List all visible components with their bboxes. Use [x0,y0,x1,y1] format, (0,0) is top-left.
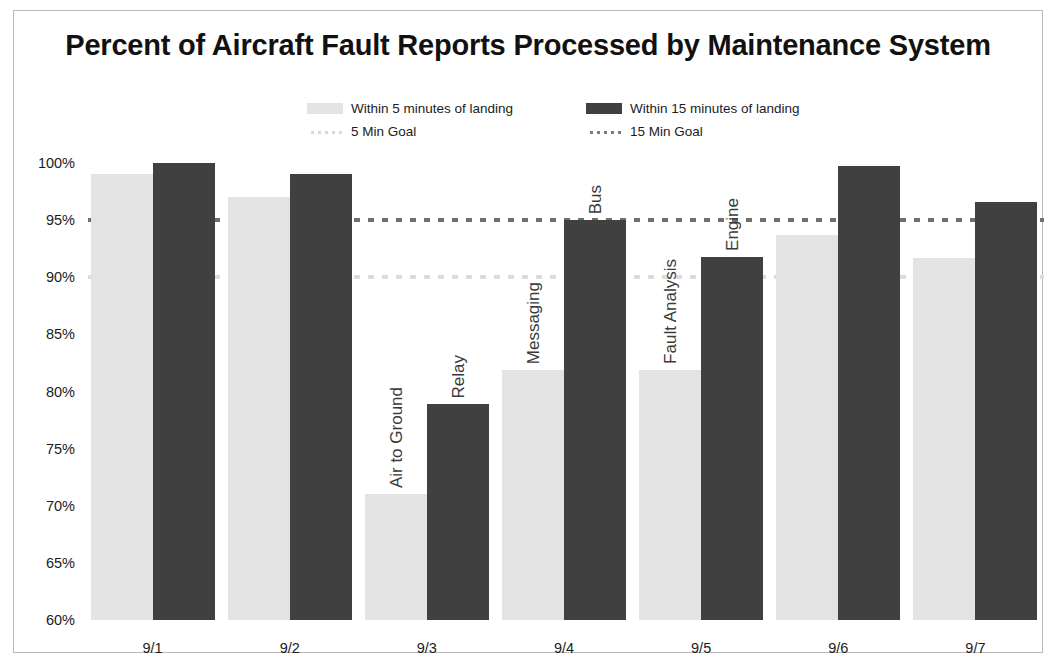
bar-within-5-minutes[interactable] [913,258,975,620]
chart-frame: Percent of Aircraft Fault Reports Proces… [13,10,1043,653]
bar-annotation: Relay [449,355,466,398]
bar-group: 9/2 [221,163,358,620]
x-axis-tick-label: 9/4 [495,640,632,656]
dotted-line-light-swatch-icon [307,126,343,137]
y-axis-tick-label: 90% [46,269,75,285]
bar-group: 9/6 [770,163,907,620]
legend-row-series: Within 5 minutes of landing Within 15 mi… [289,97,849,119]
x-axis-tick-label: 9/6 [770,640,907,656]
legend-item-within-15-minutes: Within 15 minutes of landing [586,97,800,119]
x-axis-tick-label: 9/5 [633,640,770,656]
bar-annotation: Bus [586,185,603,214]
y-axis-tick-label: 95% [46,212,75,228]
legend-item-15-min-goal: 15 Min Goal [586,120,703,142]
x-axis-tick-label: 9/7 [907,640,1044,656]
x-axis-tick-label: 9/3 [358,640,495,656]
bar-within-5-minutes[interactable] [228,197,290,620]
bar-group: Fault AnalysisEngine9/5 [633,163,770,620]
bar-within-15-minutes[interactable] [975,202,1037,620]
bar-within-5-minutes[interactable] [776,235,838,620]
bar-annotation: Messaging [524,282,541,364]
bar-within-5-minutes[interactable] [365,494,427,620]
bar-within-15-minutes[interactable] [290,174,352,620]
bar-within-15-minutes[interactable] [838,166,900,620]
legend-item-within-5-minutes: Within 5 minutes of landing [307,97,513,119]
bar-group: Air to GroundRelay9/3 [358,163,495,620]
bar-dark-swatch-icon [586,103,622,114]
legend-label: Within 5 minutes of landing [351,101,513,116]
bar-within-5-minutes[interactable] [91,174,153,620]
y-axis-tick-label: 85% [46,326,75,342]
legend-label: 15 Min Goal [630,124,703,139]
legend-row-goals: 5 Min Goal 15 Min Goal [289,120,849,142]
bar-within-15-minutes[interactable] [427,404,489,620]
y-axis-tick-label: 100% [38,155,75,171]
bar-within-5-minutes[interactable] [639,370,701,620]
bar-annotation: Air to Ground [387,387,404,488]
y-axis-tick-label: 70% [46,498,75,514]
bar-group: MessagingBus9/4 [495,163,632,620]
x-axis-tick-label: 9/2 [221,640,358,656]
legend-label: Within 15 minutes of landing [630,101,800,116]
chart-legend: Within 5 minutes of landing Within 15 mi… [289,97,849,143]
y-axis-tick-label: 75% [46,441,75,457]
legend-item-5-min-goal: 5 Min Goal [307,120,416,142]
y-axis-tick-label: 60% [46,612,75,628]
bar-annotation: Engine [724,198,741,251]
bar-within-15-minutes[interactable] [564,220,626,620]
bar-group: 9/7 [907,163,1044,620]
bar-within-5-minutes[interactable] [502,370,564,620]
bar-within-15-minutes[interactable] [153,163,215,620]
bar-annotation: Fault Analysis [662,259,679,364]
plot-area: 100%95%90%85%80%75%70%65%60%9/19/2Air to… [84,163,1044,620]
dotted-line-dark-swatch-icon [586,126,622,137]
bar-within-15-minutes[interactable] [701,257,763,620]
chart-title: Percent of Aircraft Fault Reports Proces… [14,29,1042,62]
legend-label: 5 Min Goal [351,124,416,139]
x-axis-tick-label: 9/1 [84,640,221,656]
bar-light-swatch-icon [307,103,343,114]
y-axis-tick-label: 80% [46,384,75,400]
y-axis-tick-label: 65% [46,555,75,571]
bar-group: 9/1 [84,163,221,620]
